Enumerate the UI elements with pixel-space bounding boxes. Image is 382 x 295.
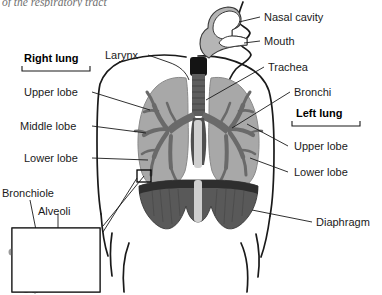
label-larynx: Larynx xyxy=(105,49,139,61)
label-alveoli: Alveoli xyxy=(38,205,70,217)
label-right-upper-lobe: Upper lobe xyxy=(24,86,78,98)
esophagus-strip xyxy=(194,180,202,222)
label-left-lower-lobe: Lower lobe xyxy=(294,166,348,178)
label-right-middle-lobe: Middle lobe xyxy=(20,120,76,132)
airway-group xyxy=(190,57,207,116)
heading-right-lung: Right lung xyxy=(24,52,78,64)
inset-frame-top xyxy=(12,228,100,292)
central-spine-strip xyxy=(194,120,202,168)
label-diaphragm: Diaphragm xyxy=(316,216,370,228)
label-trachea: Trachea xyxy=(268,61,309,73)
label-nasal-cavity: Nasal cavity xyxy=(264,11,324,23)
label-mouth: Mouth xyxy=(264,35,295,47)
heading-left-lung: Left lung xyxy=(296,107,342,119)
diaphragm-group xyxy=(139,180,258,229)
respiratory-system-diagram: of the respiratory tract xyxy=(0,0,382,295)
label-left-upper-lobe: Upper lobe xyxy=(294,140,348,152)
label-right-lower-lobe: Lower lobe xyxy=(24,152,78,164)
label-bronchi: Bronchi xyxy=(294,86,331,98)
larynx-shape xyxy=(190,57,207,76)
alveoli-inset-group xyxy=(12,228,100,293)
label-bronchiole: Bronchiole xyxy=(2,187,54,199)
mouth-cavity xyxy=(219,36,247,47)
